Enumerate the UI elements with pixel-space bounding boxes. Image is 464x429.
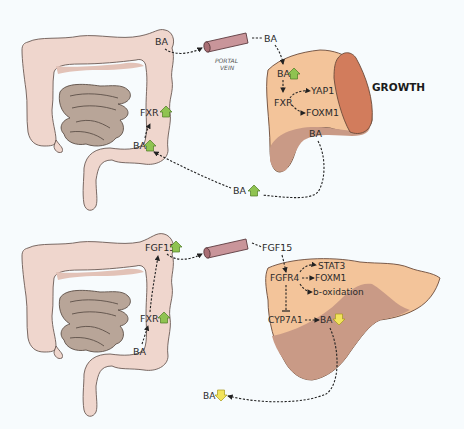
- down-arrow-icon: [215, 390, 227, 401]
- portal-vein-label-line1: PORTAL: [215, 57, 238, 64]
- portal-vein-icon: [203, 239, 248, 259]
- bottom-panel: FGF15 FXR BA FGF15 FGFR4 STAT3 FOXM1 b-o…: [22, 234, 440, 417]
- liver-fxr-label: FXR: [274, 97, 293, 108]
- small-intestine-icon: [59, 290, 130, 352]
- intestine-ba-label: BA: [133, 346, 147, 357]
- vein-to-fgf15-arrow: [252, 243, 262, 247]
- up-arrow-icon: [248, 185, 260, 196]
- portal-vein-icon: [203, 33, 248, 53]
- intestine-fgf15-label: FGF15: [145, 242, 175, 253]
- foxm1-label: FOXM1: [315, 273, 346, 283]
- growth-outcome-label: GROWTH: [372, 81, 425, 93]
- recirculating-ba-label: BA: [233, 185, 247, 196]
- small-intestine-icon: [59, 84, 130, 146]
- liver-ba-label: BA: [320, 315, 333, 325]
- vein-ba-label: BA: [264, 33, 278, 44]
- yap1-label: YAP1: [310, 85, 334, 96]
- stat3-label: STAT3: [318, 261, 345, 271]
- bile-acid-signaling-diagram: BA FXR BA PORTAL VEIN BA BA FXR YAP1 FO: [0, 0, 464, 429]
- cyp7a1-label: CYP7A1: [268, 315, 303, 325]
- intestine-fxr-label: FXR: [140, 107, 159, 118]
- portal-vein-label-line2: VEIN: [220, 64, 235, 71]
- foxm1-label: FOXM1: [306, 107, 339, 118]
- intestine-ba-label: BA: [155, 36, 169, 47]
- top-panel: BA FXR BA PORTAL VEIN BA BA FXR YAP1 FO: [22, 30, 425, 211]
- fgfr4-label: FGFR4: [270, 273, 300, 283]
- intestine-fxr-label: FXR: [140, 313, 159, 324]
- b-oxidation-label: b-oxidation: [313, 287, 364, 297]
- excreted-ba-label: BA: [203, 391, 216, 401]
- liver-ba-out-label: BA: [309, 128, 323, 139]
- vein-fgf15-label: FGF15: [262, 242, 292, 253]
